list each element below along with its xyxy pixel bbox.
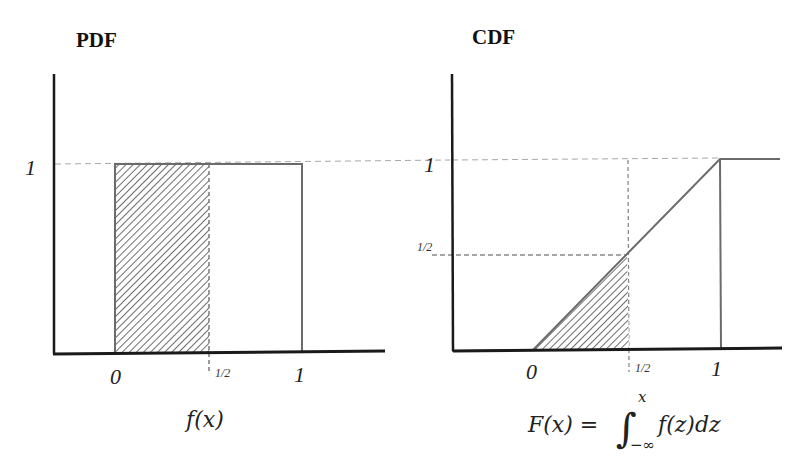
cdf-caption-rhs: f(z)dz	[656, 412, 721, 437]
cdf-integral-upper: x	[638, 388, 647, 406]
cdf-x-tick-zero: 0	[526, 359, 537, 384]
pdf-y-tick-one: 1	[25, 155, 36, 180]
pdf-shaded-region	[115, 164, 209, 353]
cdf-one-reference-line	[452, 158, 720, 160]
cdf-x-tick-one: 1	[711, 356, 722, 381]
cdf-integral-lower: −∞	[630, 436, 655, 454]
cdf-y-tick-one: 1	[424, 152, 435, 177]
pdf-caption: f(x)	[184, 407, 224, 432]
figure-canvas: PDF 1 0 1/2 1 f(x) CDF	[0, 0, 811, 475]
cdf-y-tick-half: 1/2	[417, 240, 432, 254]
cdf-x-axis	[453, 348, 782, 351]
cdf-title: CDF	[472, 25, 515, 49]
cdf-x-tick-half: 1/2	[635, 361, 650, 375]
cdf-caption: F(x) = ∫ x −∞ f(z)dz	[527, 388, 721, 454]
cdf-one-vertical-line	[720, 159, 721, 349]
pdf-x-axis	[53, 351, 385, 354]
cdf-panel: CDF 1 1/2 0 1/2 1 F(x) = ∫ x −∞ f(z)dz	[417, 25, 782, 454]
pdf-x-tick-half: 1/2	[215, 366, 230, 380]
cdf-caption-lhs: F(x) =	[527, 412, 598, 437]
cdf-y-axis	[452, 74, 453, 351]
pdf-panel: PDF 1 0 1/2 1 f(x)	[25, 28, 450, 432]
pdf-x-tick-one: 1	[294, 362, 305, 387]
pdf-x-tick-zero: 0	[110, 364, 121, 389]
pdf-title: PDF	[76, 28, 117, 52]
